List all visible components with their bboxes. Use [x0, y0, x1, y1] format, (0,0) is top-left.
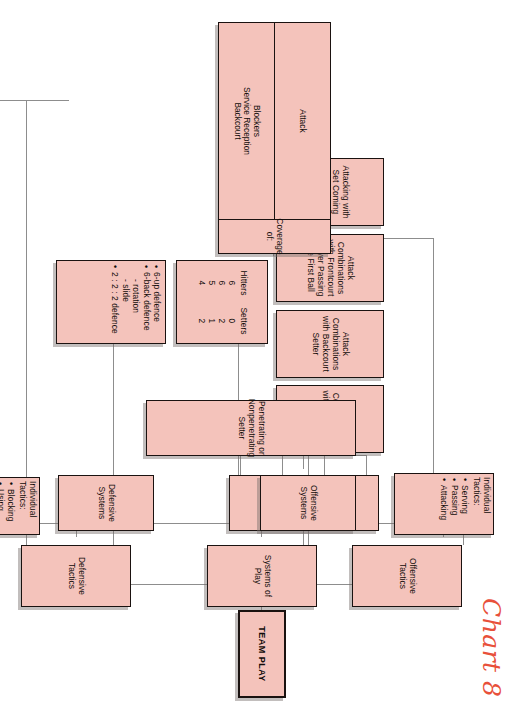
hitters-setters-table[interactable]: Hitters Setters 6 0 6 2 5 1 4 2: [176, 260, 268, 344]
chart-stage: Chart 8: [0, 0, 524, 728]
coverage-label: Coverage of:: [219, 219, 330, 253]
connector-team-c1: [366, 455, 367, 475]
coverage-cell-blockers[interactable]: Blockers Service Reception Backcourt: [219, 23, 274, 219]
connector-team-in: [303, 455, 304, 469]
table-row: 6 0: [226, 264, 236, 340]
coverage-cells: Attack Blockers Service Reception Backco…: [219, 23, 330, 219]
branch-offensive-tactics[interactable]: Offensive Tactics: [352, 545, 462, 607]
connector-def-rail-vertical: [0, 100, 69, 101]
cell-setters: 2: [196, 305, 206, 337]
root-node-team-play[interactable]: TEAM PLAY: [238, 610, 286, 698]
list-item: - slide: [120, 272, 130, 334]
list-item: 6-up defence: [151, 272, 161, 334]
list-item: 6-back defence: [141, 272, 151, 334]
page-title: Chart 8: [477, 598, 506, 697]
connector-team-c3: [282, 455, 283, 475]
branch-defensive-tactics[interactable]: Defensive Tactics: [21, 545, 131, 607]
list-item: Using backcourt players: [0, 489, 5, 531]
list-item: Passing: [449, 485, 459, 531]
defensive-individual-tactics[interactable]: Individual Tactics: Blocking Using backc…: [0, 477, 40, 535]
connector-team-c4: [240, 455, 241, 475]
penetrating-setter-node[interactable]: Penetrating or Nonpenetrating Setter: [146, 400, 356, 456]
column-header-setters: Setters: [238, 305, 248, 337]
cell-hitters: 6: [216, 267, 226, 299]
list-item: Attacking: [438, 485, 448, 531]
list-item: Serving: [459, 485, 469, 531]
cell-hitters: 6: [226, 267, 236, 299]
defensive-individual-header: Individual Tactics:: [17, 481, 37, 531]
cell-setters: 1: [206, 305, 216, 337]
table-header-row: Hitters Setters: [238, 264, 248, 340]
defensive-systems-node[interactable]: Defensive Systems: [58, 475, 154, 531]
connector-defsys-list: [113, 340, 114, 475]
list-item: Blocking: [5, 489, 15, 531]
cell-hitters: 4: [196, 267, 206, 299]
list-item: - rotation: [130, 272, 140, 334]
offensive-individual-tactics[interactable]: Individual Tactics: Serving Passing Atta…: [394, 473, 494, 535]
table-row: 5 1: [206, 264, 216, 340]
coverage-cell-attack[interactable]: Attack: [274, 23, 330, 219]
offensive-individual-header: Individual Tactics:: [471, 477, 491, 531]
table-body: Hitters Setters 6 0 6 2 5 1 4 2: [196, 264, 248, 340]
chart-canvas: Chart 8: [0, 0, 524, 728]
offensive-coverage-group[interactable]: Attack Blockers Service Reception Backco…: [218, 22, 331, 254]
connector-def-rail-top: [26, 100, 27, 525]
defensive-systems-list[interactable]: 6-up defence 6-back defence - rotation -…: [56, 260, 166, 344]
table-row: 6 2: [216, 264, 226, 340]
list-item: 2 : 2 : 2 defence: [109, 272, 119, 334]
offensive-systems-node[interactable]: Offensive Systems: [260, 475, 356, 531]
branch-systems-of-play[interactable]: Systems of Play: [207, 545, 317, 607]
connector-offsys-pen: [308, 455, 309, 475]
cell-hitters: 5: [206, 267, 216, 299]
cell-setters: 2: [216, 305, 226, 337]
cell-setters: 0: [226, 305, 236, 337]
column-header-hitters: Hitters: [238, 267, 248, 299]
table-row: 4 2: [196, 264, 206, 340]
offensive-team-child-2[interactable]: Attack Combinations with Backcourt Sette…: [276, 310, 384, 378]
connector-team-c2: [324, 455, 325, 475]
